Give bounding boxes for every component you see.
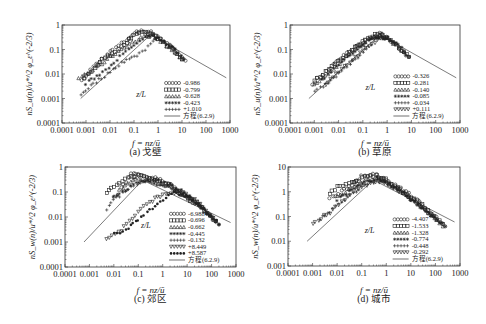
x-tick-label: 0.01 bbox=[331, 125, 346, 135]
y-tick-label: 10 bbox=[278, 162, 287, 172]
y-tick-label: 0.0001 bbox=[265, 118, 288, 128]
y-axis-label: nS_w(n)/u*^2 φ_ε^(-2/3) bbox=[250, 174, 260, 259]
x-tick-label: 0.01 bbox=[106, 269, 121, 279]
x-tick-label: 1 bbox=[385, 125, 389, 135]
plot-area bbox=[84, 172, 231, 242]
x-tick-label: 10 bbox=[407, 268, 416, 278]
x-tick-label: 0.1 bbox=[129, 125, 140, 135]
y-tick-label: 0.001 bbox=[267, 261, 286, 271]
y-tick-label: 0.1 bbox=[277, 45, 288, 55]
x-tick-label: 0.1 bbox=[358, 125, 369, 135]
x-tick-label: 100 bbox=[205, 269, 218, 279]
y-tick-label: 0.001 bbox=[41, 94, 60, 104]
x-tick-label: 0.01 bbox=[103, 125, 118, 135]
y-axis-label: nS_u(n)/u*^2 φ_ε^(-2/3) bbox=[24, 32, 34, 115]
x-tick-label: 1 bbox=[384, 268, 388, 278]
legend-heading: z/L bbox=[135, 90, 146, 99]
y-axis-label: nS_u(n)/u*^2 φ_ε^(-2/3) bbox=[252, 32, 262, 115]
legend-entry-equation: 方程(6.2.9) bbox=[188, 255, 219, 264]
plot-area bbox=[307, 172, 454, 241]
legend-heading: z/L bbox=[364, 83, 375, 92]
panel-caption: (b) 草原 bbox=[358, 146, 391, 158]
reference-line bbox=[81, 35, 227, 99]
x-tick-label: 1000 bbox=[228, 269, 245, 279]
x-tick-label: 10 bbox=[407, 125, 416, 135]
y-tick-label: 0.001 bbox=[44, 237, 63, 247]
x-tick-label: 0.1 bbox=[356, 268, 367, 278]
x-tick-label: 0.001 bbox=[80, 269, 99, 279]
x-tick-label: 0.001 bbox=[303, 268, 322, 278]
panel-caption: (a) 戈壁 bbox=[130, 146, 163, 158]
x-tick-label: 0.01 bbox=[330, 268, 345, 278]
reference-line bbox=[307, 180, 454, 241]
y-tick-label: 0.0001 bbox=[37, 118, 60, 128]
y-tick-label: 0.001 bbox=[269, 94, 288, 104]
x-tick-label: 100 bbox=[200, 125, 213, 135]
legend: z/L-0.326-0.281-0.140-0.085-0.034+0.111方… bbox=[364, 72, 443, 120]
x-tick-label: 0.1 bbox=[133, 269, 144, 279]
x-tick-label: 0.001 bbox=[76, 125, 95, 135]
x-tick-label: 100 bbox=[429, 268, 442, 278]
panel-caption: (c) 郊区 bbox=[134, 293, 167, 305]
y-tick-label: 0.1 bbox=[49, 45, 60, 55]
y-tick-label: 0.1 bbox=[52, 187, 63, 197]
series--0.085 bbox=[320, 35, 411, 81]
series--0.799 bbox=[82, 30, 183, 80]
y-tick-label: 1 bbox=[59, 162, 63, 172]
plot-area bbox=[309, 31, 456, 98]
chart-panel-d: 0.00010.0010.010.111010010000.0010.010.1… bbox=[250, 162, 469, 305]
chart-panel-a: 0.00010.0010.010.111010010000.00010.0010… bbox=[24, 20, 239, 158]
y-tick-label: 0.01 bbox=[271, 236, 286, 246]
x-tick-label: 1 bbox=[161, 269, 165, 279]
y-tick-label: 1 bbox=[56, 20, 60, 30]
x-tick-label: 10 bbox=[178, 125, 187, 135]
legend-heading: z/L bbox=[140, 221, 151, 230]
panel-caption: (d) 城市 bbox=[357, 293, 390, 305]
legend-entry-equation: 方程(6.2.9) bbox=[183, 111, 214, 120]
figure: 0.00010.0010.010.111010010000.00010.0010… bbox=[0, 0, 486, 324]
chart-panel-c: 0.00010.0010.010.111010010000.00010.0010… bbox=[27, 162, 245, 305]
plot-area bbox=[77, 29, 226, 99]
x-tick-label: 10 bbox=[183, 269, 192, 279]
y-tick-label: 0.1 bbox=[275, 212, 286, 222]
chart-panel-b: 0.00010.0010.010.111010010000.00010.0010… bbox=[252, 20, 469, 158]
x-tick-label: 1 bbox=[156, 125, 160, 135]
legend-heading: z/L bbox=[364, 226, 375, 235]
legend-entry-equation: 方程(6.2.9) bbox=[412, 111, 443, 120]
y-tick-label: 0.01 bbox=[48, 212, 63, 222]
legend: z/L-4.407-1.533-1.328-0.774-0.448-0.292方… bbox=[364, 215, 443, 263]
y-axis-label: nS_w(n)/u*^2 φ_ε^(-2/3) bbox=[27, 175, 37, 260]
x-tick-label: 1000 bbox=[222, 125, 239, 135]
legend: z/L-6.988-0.696-0.662-0.445-0.132+8.449+… bbox=[140, 210, 219, 264]
x-tick-label: 1000 bbox=[452, 268, 469, 278]
y-tick-label: 0.0001 bbox=[40, 262, 63, 272]
x-tick-label: 1000 bbox=[452, 125, 469, 135]
y-tick-label: 1 bbox=[282, 187, 286, 197]
x-tick-label: 0.001 bbox=[305, 125, 324, 135]
y-tick-label: 0.01 bbox=[45, 69, 60, 79]
legend-entry-equation: 方程(6.2.9) bbox=[412, 254, 443, 263]
legend: z/L-0.986-0.799-0.628-0.423+1.010方程(6.2.… bbox=[135, 79, 214, 120]
y-tick-label: 1 bbox=[284, 20, 288, 30]
x-tick-label: 100 bbox=[429, 125, 442, 135]
y-tick-label: 0.01 bbox=[273, 69, 288, 79]
